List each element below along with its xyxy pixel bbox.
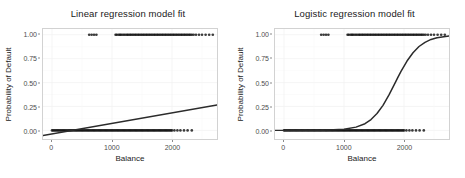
data-point: [325, 33, 328, 36]
x-tick-mark: [344, 140, 345, 142]
y-tick-mark: [38, 33, 40, 34]
x-tick-label: 0: [49, 144, 53, 151]
y-tick-mark: [270, 33, 272, 34]
y-tick-mark: [38, 58, 40, 59]
x-axis-label-logistic: Balance: [274, 154, 450, 163]
fit-line-logistic: [275, 36, 449, 130]
data-point: [88, 33, 91, 36]
data-point: [190, 129, 193, 132]
chart-title-logistic: Logistic regression model fit: [232, 8, 465, 19]
data-point: [192, 33, 195, 36]
data-point: [90, 33, 93, 36]
y-tick-label: 0.00: [23, 128, 37, 135]
data-point: [405, 129, 408, 132]
x-axis-label-linear: Balance: [42, 154, 218, 163]
y-tick-mark: [38, 106, 40, 107]
data-point: [430, 33, 433, 36]
data-point: [440, 33, 443, 36]
data-point: [427, 33, 430, 36]
x-tick-label: 2000: [397, 144, 413, 151]
x-axis-ticks-logistic: 010002000: [274, 140, 450, 154]
data-point: [208, 33, 211, 36]
y-tick-label: 1.00: [255, 30, 269, 37]
y-tick-label: 1.00: [23, 30, 37, 37]
x-tick-mark: [404, 140, 405, 142]
x-tick-label: 1000: [336, 144, 352, 151]
data-point: [93, 33, 96, 36]
data-point: [198, 33, 201, 36]
data-point: [415, 129, 418, 132]
x-tick-label: 2000: [165, 144, 181, 151]
y-axis-ticks-logistic: 0.000.250.500.751.00: [246, 28, 272, 140]
y-tick-mark: [270, 58, 272, 59]
y-tick-label: 0.25: [255, 103, 269, 110]
data-point: [173, 129, 176, 132]
y-axis-label-text-linear: Probability of Default: [5, 47, 14, 121]
data-point: [436, 33, 439, 36]
y-tick-label: 0.50: [255, 79, 269, 86]
y-tick-label: 0.75: [23, 55, 37, 62]
data-point: [186, 129, 189, 132]
data-point: [183, 129, 186, 132]
x-tick-mark: [172, 140, 173, 142]
y-tick-label: 0.25: [23, 103, 37, 110]
data-point: [411, 129, 414, 132]
data-point: [211, 33, 214, 36]
data-point: [95, 33, 98, 36]
gridlines-linear: [43, 29, 217, 139]
plot-svg-logistic: [275, 29, 449, 139]
y-tick-mark: [38, 131, 40, 132]
x-tick-label: 0: [281, 144, 285, 151]
x-tick-mark: [51, 140, 52, 142]
data-point: [424, 33, 427, 36]
data-point: [327, 33, 330, 36]
data-point: [422, 129, 425, 132]
x-tick-mark: [112, 140, 113, 142]
data-point: [204, 33, 207, 36]
data-point: [320, 33, 323, 36]
data-point: [433, 33, 436, 36]
data-point: [179, 129, 182, 132]
data-point: [418, 129, 421, 132]
y-axis-ticks-linear: 0.000.250.500.751.00: [14, 28, 40, 140]
data-point: [201, 33, 204, 36]
y-axis-label-text-logistic: Probability of Default: [237, 47, 246, 121]
y-tick-mark: [270, 106, 272, 107]
data-point: [403, 129, 406, 132]
y-tick-mark: [270, 131, 272, 132]
panel-logistic-regression: Logistic regression model fit Probabilit…: [232, 0, 465, 178]
y-tick-label: 0.00: [255, 128, 269, 135]
plot-svg-linear: [43, 29, 217, 139]
figure-root: Linear regression model fit Probability …: [0, 0, 465, 178]
gridlines-logistic: [275, 29, 449, 139]
plot-area-logistic: [274, 28, 450, 140]
data-point: [408, 129, 411, 132]
y-tick-mark: [270, 82, 272, 83]
data-point: [176, 129, 179, 132]
data-point: [171, 129, 174, 132]
x-axis-ticks-linear: 010002000: [42, 140, 218, 154]
regression-fit-line: [275, 36, 449, 130]
x-tick-mark: [283, 140, 284, 142]
data-point: [195, 33, 198, 36]
data-point: [322, 33, 325, 36]
plot-area-linear: [42, 28, 218, 140]
x-tick-label: 1000: [104, 144, 120, 151]
y-tick-label: 0.75: [255, 55, 269, 62]
y-tick-label: 0.50: [23, 79, 37, 86]
panel-linear-regression: Linear regression model fit Probability …: [0, 0, 232, 178]
y-tick-mark: [38, 82, 40, 83]
chart-title-linear: Linear regression model fit: [0, 8, 244, 19]
data-point: [443, 33, 446, 36]
